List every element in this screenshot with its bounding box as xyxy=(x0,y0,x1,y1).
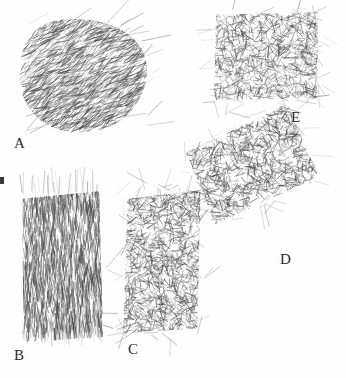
texture-patch-e xyxy=(214,12,319,100)
texture-patch-b xyxy=(21,191,104,342)
patch-strokes-b xyxy=(15,185,110,349)
patch-strokes-e xyxy=(208,6,325,106)
figure-plate: ABCDE xyxy=(0,0,346,378)
patch-strokes-a xyxy=(12,12,154,139)
panel-label-b: B xyxy=(14,348,25,363)
panel-label-d: D xyxy=(280,252,291,267)
panel-label-e: E xyxy=(291,110,301,125)
texture-patch-a xyxy=(18,18,148,133)
panel-label-c: C xyxy=(128,342,139,357)
panel-label-a: A xyxy=(14,136,25,151)
texture-patch-c xyxy=(115,185,207,338)
left-edge-tick xyxy=(0,177,4,184)
